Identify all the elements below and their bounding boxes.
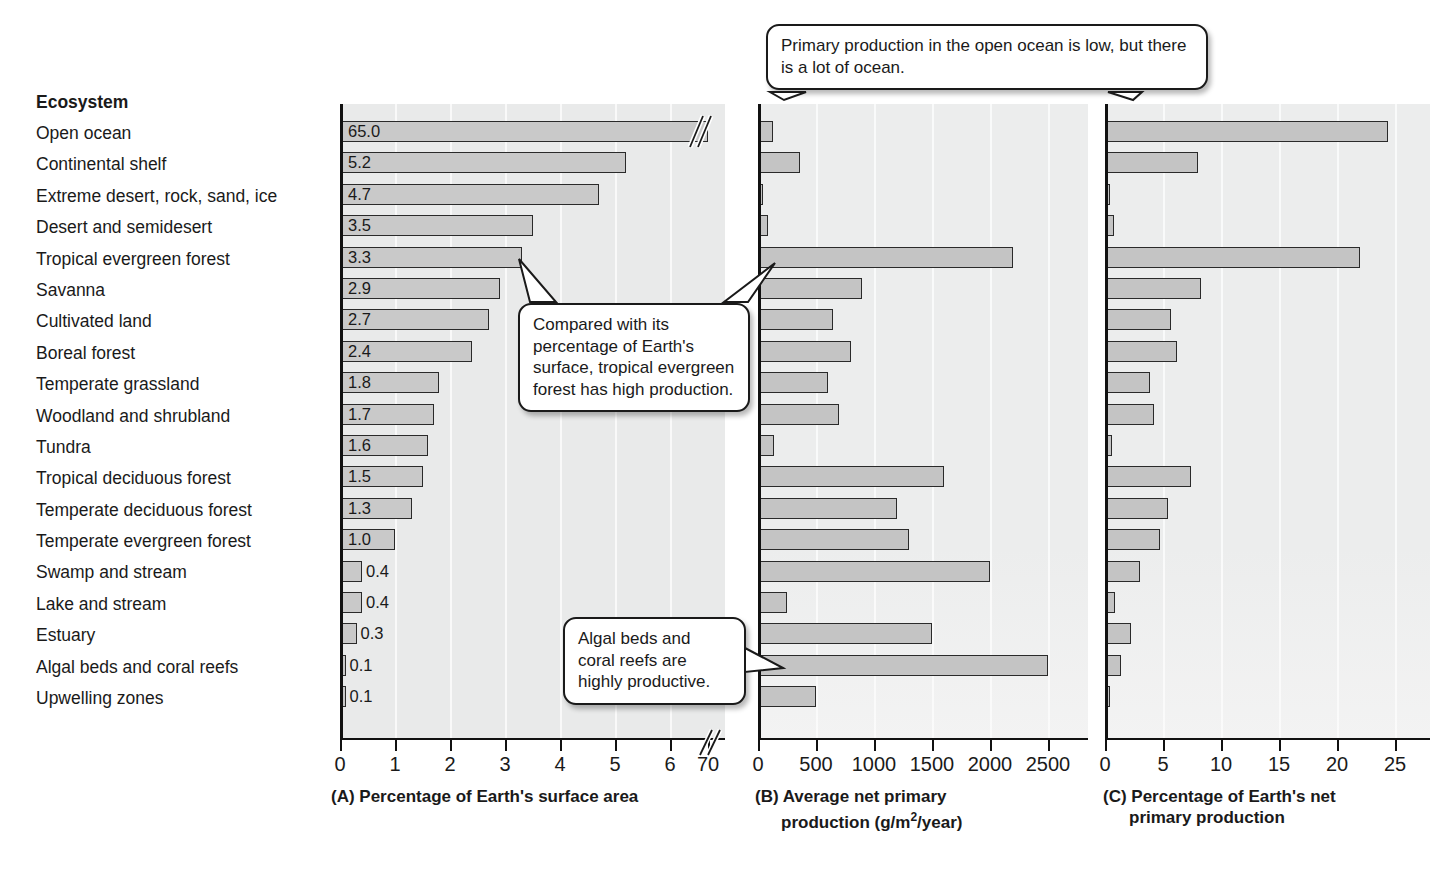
axis-tick-label: 0	[334, 753, 345, 776]
axis-tick	[816, 740, 818, 751]
bar-row	[758, 179, 1088, 210]
bar-row: 65.0	[340, 116, 725, 147]
tropical-forest-callout: Compared with its percentage of Earth's …	[518, 303, 750, 412]
ecosystem-label: Boreal forest	[36, 338, 336, 369]
bar-value-label: 3.3	[348, 247, 371, 268]
axis-tick-label: 5	[1157, 753, 1168, 776]
bar-row	[1105, 367, 1430, 398]
axis-tick	[395, 740, 397, 751]
bar-row	[1105, 650, 1430, 681]
bar-value-label: 4.7	[348, 184, 371, 205]
bar-row: 0.4	[340, 587, 725, 618]
panel-a-caption: (A) Percentage of Earth's surface area	[331, 786, 731, 807]
callout-tail-open-ocean-b	[770, 92, 806, 100]
bar-value-label: 1.5	[348, 466, 371, 487]
callout-tail-open-ocean-c	[1108, 92, 1142, 100]
ecosystem-label-list: Open oceanContinental shelfExtreme deser…	[36, 118, 336, 714]
ecosystem-label-column: Ecosystem Open oceanContinental shelfExt…	[36, 86, 336, 714]
bar-row	[1105, 304, 1430, 335]
axis-tick-label: 20	[1326, 753, 1348, 776]
axis-tick-label: 2000	[968, 753, 1013, 776]
axis-tick	[1279, 740, 1281, 751]
bar-row: 1.5	[340, 461, 725, 492]
panel-c-bars	[1105, 104, 1430, 740]
bar	[1105, 121, 1388, 142]
axis-tick	[560, 740, 562, 751]
axis-tick-label: 500	[799, 753, 832, 776]
bar-row: 1.6	[340, 430, 725, 461]
axis-tick-label: 3	[499, 753, 510, 776]
bar	[758, 466, 944, 487]
axis-tick	[874, 740, 876, 751]
bar-value-label: 0.1	[350, 686, 373, 707]
panel-b-caption: (B) Average net primary production (g/m2…	[755, 786, 1085, 833]
ecosystem-label: Savanna	[36, 275, 336, 306]
bar	[1105, 529, 1160, 550]
axis-tick	[1048, 740, 1050, 751]
bar	[1105, 278, 1201, 299]
bar	[1105, 466, 1191, 487]
bar	[1105, 561, 1140, 582]
bar	[758, 623, 932, 644]
bar	[758, 498, 897, 519]
bar	[340, 121, 708, 142]
axis-tick	[1337, 740, 1339, 751]
bar-row	[1105, 336, 1430, 367]
bar-value-label: 2.9	[348, 278, 371, 299]
bar-row	[1105, 242, 1430, 273]
bar-value-label: 1.0	[348, 529, 371, 550]
axis-tick	[670, 740, 672, 751]
bar-value-label: 0.1	[350, 655, 373, 676]
bar-row	[758, 493, 1088, 524]
bar-row	[758, 147, 1088, 178]
bar-value-label: 3.5	[348, 215, 371, 236]
bar-row	[1105, 587, 1430, 618]
axis-tick-label: 15	[1268, 753, 1290, 776]
bar-row	[758, 273, 1088, 304]
bar-value-label: 65.0	[348, 121, 380, 142]
ecosystem-label: Lake and stream	[36, 589, 336, 620]
panel-b-x-ticks: 05001000150020002500	[758, 740, 1088, 790]
bar	[1105, 498, 1168, 519]
axis-tick-label: 1500	[910, 753, 955, 776]
axis-tick	[932, 740, 934, 751]
ecosystem-label: Continental shelf	[36, 149, 336, 180]
bar-value-label: 0.4	[366, 561, 389, 582]
bar-row	[1105, 179, 1430, 210]
bar-row	[758, 399, 1088, 430]
ecosystem-label: Tropical evergreen forest	[36, 244, 336, 275]
bar	[758, 655, 1048, 676]
bar-row: 2.9	[340, 273, 725, 304]
bar	[1105, 152, 1198, 173]
bar-row: 3.5	[340, 210, 725, 241]
ecosystem-label: Tundra	[36, 432, 336, 463]
bar-row	[1105, 618, 1430, 649]
axis-tick	[1163, 740, 1165, 751]
panel-b-caption-line1: (B) Average net primary	[755, 786, 1085, 807]
bar	[758, 592, 787, 613]
bar-value-label: 1.3	[348, 498, 371, 519]
axis-tick-label: 5	[609, 753, 620, 776]
bar	[1105, 247, 1360, 268]
bar-row: 1.0	[340, 524, 725, 555]
axis-tick-label: 1	[389, 753, 400, 776]
bar-value-label: 0.4	[366, 592, 389, 613]
axis-tick	[340, 740, 342, 751]
bar	[758, 152, 800, 173]
bar-value-label: 2.4	[348, 341, 371, 362]
axis-tick-label: 10	[1210, 753, 1232, 776]
axis-tick-label: 70	[697, 753, 719, 776]
axis-tick	[708, 740, 710, 751]
axis-tick-label: 2500	[1026, 753, 1071, 776]
ecosystem-label: Woodland and shrubland	[36, 401, 336, 432]
axis-tick-label: 6	[664, 753, 675, 776]
panel-c-caption-line1: (C) Percentage of Earth's net	[1103, 786, 1433, 807]
panel-c-percentage-net-production: 0510152025	[1105, 104, 1430, 740]
panel-b-net-primary-production: 05001000150020002500	[758, 104, 1088, 740]
bar-row	[1105, 210, 1430, 241]
axis-tick-label: 0	[1099, 753, 1110, 776]
ecosystem-label: Tropical deciduous forest	[36, 463, 336, 494]
axis-tick-label: 25	[1384, 753, 1406, 776]
ecosystem-label: Open ocean	[36, 118, 336, 149]
bar-row	[758, 461, 1088, 492]
